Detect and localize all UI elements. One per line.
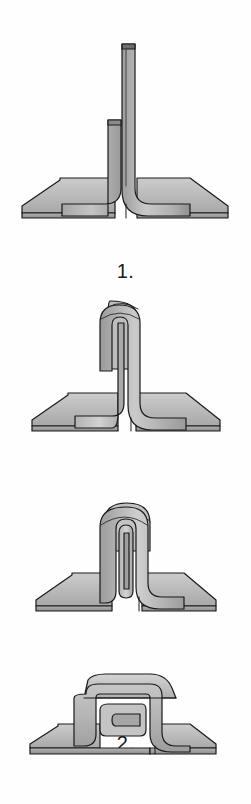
figure-4-drawing xyxy=(0,668,251,764)
captured-core-flange xyxy=(124,533,129,589)
captured-core-strip xyxy=(112,714,140,726)
figure-3-drawing xyxy=(0,495,251,623)
figure-4-group: 4. xyxy=(0,668,251,764)
figure-2-group: 2. xyxy=(0,285,251,443)
figure-3-group: 3. xyxy=(0,495,251,623)
figure-2-drawing xyxy=(0,285,251,443)
illustration-sheet: 1. xyxy=(0,0,251,804)
figure-1-caption: 1. xyxy=(0,260,251,283)
tall-flange-top-cap xyxy=(122,44,135,49)
left-base-plate-edge xyxy=(36,606,112,611)
figure-1-drawing xyxy=(0,28,251,228)
left-base-plate-edge xyxy=(30,748,150,754)
short-flange-top-cap xyxy=(108,120,121,125)
figure-1-group: 1. xyxy=(0,28,251,228)
